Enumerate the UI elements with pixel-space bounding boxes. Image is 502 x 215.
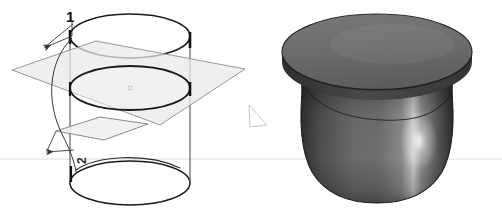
callout-label-1: 1 xyxy=(66,9,74,24)
callout-label-2: 2 xyxy=(76,157,88,164)
shaded-solid-render xyxy=(249,14,472,203)
wireframe-construction-diagram xyxy=(12,14,245,205)
figure-container: 1 2 xyxy=(0,0,502,215)
figure-canvas xyxy=(0,0,502,215)
callout-2-leader-secondary xyxy=(47,131,56,151)
stray-triangle-artifact xyxy=(249,105,267,127)
cylinder-bottom-ellipse xyxy=(70,161,190,205)
brim-disc-sheen xyxy=(330,24,454,64)
body-specular-highlight xyxy=(400,111,438,171)
cylinder-section-ellipse xyxy=(70,66,190,110)
